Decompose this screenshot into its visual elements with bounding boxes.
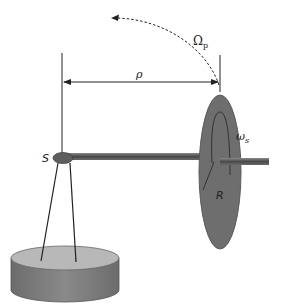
disk-radius-label: R (216, 189, 224, 202)
pivot-label: S (42, 152, 49, 165)
pivot-knob (53, 153, 73, 164)
axle-rod (68, 153, 210, 160)
precession-arc-arrow (114, 18, 219, 85)
spin-rate-label: ωs (236, 130, 249, 145)
precession-arrowhead-icon (111, 15, 119, 22)
base-cylinder (11, 246, 119, 302)
gyroscope-diagram: Ωp ρ ωs S R (0, 0, 283, 305)
lever-arm-label: ρ (135, 68, 143, 81)
axle-rod-right (220, 158, 269, 165)
spinning-disk (199, 95, 241, 249)
precession-rate-label: Ωp (193, 34, 208, 50)
